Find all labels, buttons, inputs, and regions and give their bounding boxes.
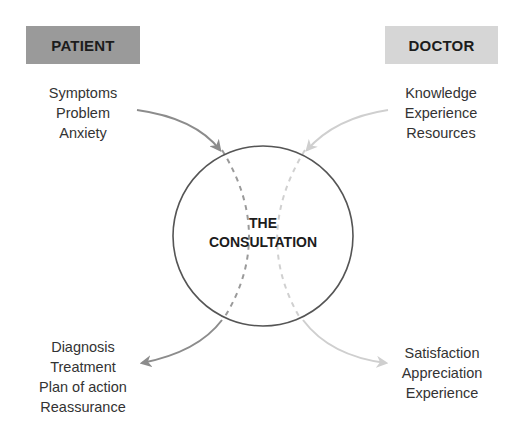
- patient-header: PATIENT: [26, 26, 140, 64]
- consultation-label: THE CONSULTATION: [163, 214, 363, 252]
- list-item: Satisfaction: [383, 343, 501, 363]
- list-item: Experience: [385, 103, 497, 123]
- list-item: Experience: [383, 383, 501, 403]
- doctor-header: DOCTOR: [385, 26, 498, 64]
- list-item: Symptoms: [28, 83, 138, 103]
- list-item: Treatment: [18, 357, 148, 377]
- doctor-inputs-list: Knowledge Experience Resources: [385, 83, 497, 143]
- list-item: Anxiety: [28, 123, 138, 143]
- list-item: Reassurance: [18, 397, 148, 417]
- list-item: Plan of action: [18, 377, 148, 397]
- doctor-output-arrow: [303, 320, 386, 363]
- list-item: Resources: [385, 123, 497, 143]
- consultation-label-line2: CONSULTATION: [163, 233, 363, 252]
- consultation-label-line1: THE: [163, 214, 363, 233]
- list-item: Knowledge: [385, 83, 497, 103]
- list-item: Diagnosis: [18, 337, 148, 357]
- patient-output-arrow: [142, 320, 222, 363]
- doctor-outputs-list: Satisfaction Appreciation Experience: [383, 343, 501, 403]
- patient-input-arrow: [137, 110, 220, 150]
- patient-outputs-list: Diagnosis Treatment Plan of action Reass…: [18, 337, 148, 417]
- list-item: Appreciation: [383, 363, 501, 383]
- doctor-title: DOCTOR: [409, 37, 475, 54]
- doctor-input-arrow: [307, 110, 388, 150]
- patient-title: PATIENT: [51, 37, 114, 54]
- patient-inputs-list: Symptoms Problem Anxiety: [28, 83, 138, 143]
- list-item: Problem: [28, 103, 138, 123]
